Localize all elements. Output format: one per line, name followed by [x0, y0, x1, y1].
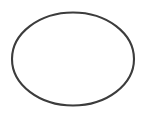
- product-image-canvas: O-ring seal shown as a thin dark ellipti…: [0, 0, 157, 115]
- o-ring-illustration: [0, 0, 157, 115]
- o-ring-outline: [12, 13, 134, 106]
